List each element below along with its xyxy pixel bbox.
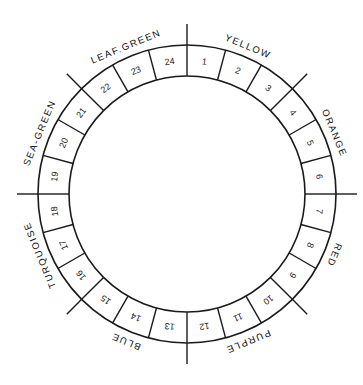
segment-number: 13	[164, 321, 175, 332]
segment-number: 14	[129, 311, 142, 324]
segment-number: 5	[305, 139, 316, 147]
segment-23: 23	[113, 64, 143, 92]
segment-number: 2	[234, 65, 242, 76]
segment-number: 1	[201, 56, 207, 67]
segment-divider	[82, 89, 104, 111]
segment-divider	[289, 120, 316, 136]
segment-number: 4	[287, 108, 298, 118]
group-label-yellow: YELLOW	[223, 32, 273, 61]
segment-number: 8	[305, 241, 316, 249]
group-divider-tick	[67, 74, 82, 89]
group-label-red: RED	[325, 242, 345, 269]
segment-number: 19	[49, 171, 60, 182]
segment-number: 23	[129, 64, 142, 77]
segment-19: 19	[38, 171, 69, 194]
segment-24: 24	[148, 50, 175, 80]
segment-15: 15	[99, 293, 128, 323]
segment-divider	[82, 277, 104, 299]
segment-divider	[246, 296, 262, 323]
group-divider-tick	[67, 299, 82, 314]
segment-21: 21	[58, 106, 88, 135]
segment-7: 7	[305, 194, 336, 215]
segment-divider	[58, 253, 85, 269]
segment-number: 20	[57, 136, 70, 149]
segment-divider	[58, 120, 85, 136]
inner-circle	[69, 76, 305, 312]
segment-divider	[218, 50, 226, 80]
segment-number: 3	[263, 83, 273, 94]
segment-divider	[113, 65, 129, 92]
segment-number: 10	[261, 293, 275, 307]
segment-number: 9	[287, 270, 298, 280]
segment-number: 21	[74, 106, 88, 120]
segment-divider	[148, 50, 156, 80]
segment-13: 13	[164, 312, 187, 343]
segment-divider	[218, 308, 226, 338]
segment-4: 4	[270, 89, 298, 118]
segment-number: 11	[232, 311, 244, 324]
segment-number: 7	[314, 208, 325, 214]
segment-divider	[246, 65, 262, 92]
segments-layer: 123456789101112131415161718192021222324	[38, 45, 336, 343]
segment-number: 17	[57, 239, 70, 252]
group-label-purple: PURPLE	[224, 328, 272, 356]
segment-number: 18	[49, 206, 60, 217]
segment-number: 6	[314, 173, 325, 179]
segment-divider	[301, 155, 331, 163]
group-label-sea-green: SEA-GREEN	[21, 98, 58, 167]
segment-divider	[289, 253, 316, 269]
segment-18: 18	[43, 206, 73, 233]
segment-divider	[270, 89, 292, 111]
segment-divider	[43, 225, 73, 233]
segment-divider	[43, 155, 73, 163]
group-divider-tick	[292, 299, 307, 314]
color-wheel-diagram: 123456789101112131415161718192021222324 …	[0, 0, 363, 385]
segment-number: 22	[99, 81, 113, 95]
segment-11: 11	[232, 296, 262, 324]
segment-number: 24	[164, 56, 175, 67]
group-label-orange: ORANGE	[320, 107, 350, 158]
segment-6: 6	[301, 155, 331, 179]
segment-divider	[113, 296, 129, 323]
segment-12: 12	[199, 308, 226, 338]
segment-divider	[301, 225, 331, 233]
segment-divider	[148, 308, 156, 338]
segment-17: 17	[57, 239, 85, 269]
segment-divider	[270, 277, 292, 299]
segment-1: 1	[187, 45, 208, 76]
segment-number: 15	[99, 293, 113, 307]
group-divider-tick	[292, 74, 307, 89]
segment-number: 16	[74, 268, 88, 282]
segment-number: 12	[199, 321, 210, 332]
